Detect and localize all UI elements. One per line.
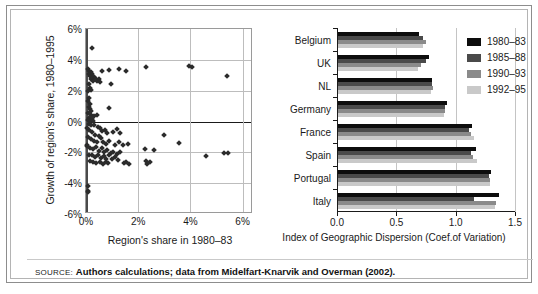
source-line: SOURCE:Authors calculations; data from M… bbox=[35, 266, 395, 277]
bar-segment bbox=[338, 44, 423, 48]
figure-container: Growth of region's share, 1980–1995 -6%-… bbox=[0, 0, 538, 294]
scatter-y-tick: 4% bbox=[68, 54, 82, 65]
scatter-x-tick: 6% bbox=[235, 216, 249, 227]
scatter-point bbox=[108, 81, 114, 87]
scatter-point bbox=[142, 146, 148, 152]
legend-label: 1992–95 bbox=[487, 84, 526, 95]
bar-segment bbox=[338, 205, 495, 209]
bar-category-tick bbox=[333, 120, 337, 121]
bar-category-tick bbox=[333, 97, 337, 98]
scatter-y-tick: 0% bbox=[68, 116, 82, 127]
scatter-point bbox=[98, 79, 104, 85]
scatter-gridline-v bbox=[243, 29, 244, 212]
bar-segment bbox=[338, 67, 418, 71]
scatter-point bbox=[126, 161, 132, 167]
bar-category-tick bbox=[333, 166, 337, 167]
scatter-gridline-v bbox=[190, 29, 191, 212]
scatter-x-tick: 0% bbox=[79, 216, 93, 227]
bar-category-label: Germany bbox=[290, 103, 331, 114]
legend-swatch-icon bbox=[467, 38, 481, 46]
legend-swatch-icon bbox=[467, 86, 481, 94]
scatter-gridline-h bbox=[86, 91, 251, 92]
scatter-gridline-v bbox=[138, 29, 139, 212]
bar-x-tick: 0.0 bbox=[330, 217, 344, 228]
bar-chart-panel: BelgiumUKNLGermanyFranceSpainPortugalIta… bbox=[279, 22, 527, 252]
bar-x-tick: 0.5 bbox=[389, 217, 403, 228]
scatter-plot-area: -6%-4%-2%0%2%4%6% 0%2%4%6% bbox=[85, 28, 252, 213]
scatter-point bbox=[104, 130, 110, 136]
scatter-point bbox=[99, 69, 105, 75]
source-label: SOURCE: bbox=[35, 268, 73, 277]
scatter-point bbox=[225, 150, 231, 156]
legend-swatch-icon bbox=[467, 70, 481, 78]
bar-segment bbox=[338, 182, 490, 186]
scatter-point bbox=[107, 106, 113, 112]
scatter-zero-line bbox=[86, 122, 251, 123]
scatter-x-axis-label: Region's share in 1980–83 bbox=[65, 234, 275, 246]
scatter-point bbox=[94, 112, 100, 118]
scatter-x-tick: 4% bbox=[183, 216, 197, 227]
bar-segment bbox=[338, 136, 474, 140]
bar-category-label: Italy bbox=[313, 195, 331, 206]
bar-x-tick: 1.5 bbox=[508, 217, 522, 228]
legend-label: 1990–93 bbox=[487, 68, 526, 79]
scatter-point bbox=[89, 45, 95, 51]
legend-swatch-icon bbox=[467, 54, 481, 62]
bar-segment bbox=[338, 159, 477, 163]
scatter-gridline-h bbox=[86, 60, 251, 61]
legend-item: 1980–83 bbox=[467, 36, 526, 47]
source-text: Authors calculations; data from Midelfar… bbox=[76, 266, 395, 277]
scatter-point bbox=[116, 66, 122, 72]
scatter-point bbox=[117, 149, 123, 155]
scatter-point bbox=[125, 141, 131, 147]
legend-item: 1985–88 bbox=[467, 52, 526, 63]
scatter-point bbox=[176, 140, 182, 146]
scatter-point bbox=[161, 132, 167, 138]
bar-segment bbox=[338, 90, 431, 94]
scatter-point bbox=[224, 73, 230, 79]
bar-category-tick bbox=[333, 74, 337, 75]
bar-category-tick bbox=[333, 143, 337, 144]
source-divider bbox=[27, 259, 533, 260]
bar-plot-area: BelgiumUKNLGermanyFranceSpainPortugalIta… bbox=[337, 28, 515, 212]
bar-category-label: UK bbox=[317, 57, 331, 68]
scatter-y-tick: -2% bbox=[64, 147, 82, 158]
scatter-y-tick: -4% bbox=[64, 178, 82, 189]
bar-category-tick bbox=[333, 51, 337, 52]
legend-label: 1985–88 bbox=[487, 52, 526, 63]
bar-x-axis-line bbox=[337, 211, 515, 212]
scatter-chart-panel: Growth of region's share, 1980–1995 -6%-… bbox=[25, 22, 273, 252]
scatter-y-tick: 2% bbox=[68, 85, 82, 96]
scatter-gridline-h bbox=[86, 183, 251, 184]
legend-label: 1980–83 bbox=[487, 36, 526, 47]
scatter-point bbox=[107, 67, 113, 73]
bar-x-axis-label: Index of Geographic Dispersion (Coef.of … bbox=[261, 232, 527, 243]
bar-category-label: NL bbox=[318, 80, 331, 91]
scatter-x-tick: 2% bbox=[131, 216, 145, 227]
scatter-y-axis-label: Growth of region's share, 1980–1995 bbox=[44, 25, 56, 215]
scatter-point bbox=[203, 153, 209, 159]
scatter-point bbox=[107, 138, 113, 144]
legend: 1980–831985–881990–931992–95 bbox=[467, 36, 526, 100]
bar-category-label: Portugal bbox=[294, 172, 331, 183]
bar-category-tick bbox=[333, 28, 337, 29]
bar-category-label: Spain bbox=[305, 149, 331, 160]
bar-x-tick: 1.0 bbox=[449, 217, 463, 228]
scatter-point bbox=[124, 69, 130, 75]
scatter-y-tick: 6% bbox=[68, 24, 82, 35]
legend-item: 1990–93 bbox=[467, 68, 526, 79]
scatter-point bbox=[117, 130, 123, 136]
bar-x-tick-mark bbox=[337, 212, 338, 216]
bar-segment bbox=[338, 113, 444, 117]
bar-category-tick bbox=[333, 189, 337, 190]
legend-item: 1992–95 bbox=[467, 84, 526, 95]
bar-x-tick-mark bbox=[515, 212, 516, 216]
bar-x-tick-mark bbox=[456, 212, 457, 216]
scatter-point bbox=[143, 64, 149, 70]
scatter-point bbox=[147, 159, 153, 165]
figure-inner-border: Growth of region's share, 1980–1995 -6%-… bbox=[10, 9, 528, 279]
bar-category-label: France bbox=[300, 126, 331, 137]
bar-x-tick-mark bbox=[396, 212, 397, 216]
bar-category-label: Belgium bbox=[295, 34, 331, 45]
